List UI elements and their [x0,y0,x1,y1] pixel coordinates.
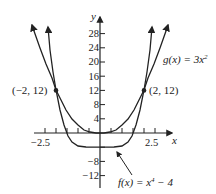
point-right [142,88,147,93]
y-tick-12: 12 [89,85,100,96]
function-graph: y x −2.5 2.5 28 24 20 16 12 8 4 −8 −12 (… [0,0,216,194]
f-function-label: f(x) = x4 − 4 [118,176,174,189]
y-tick-8: 8 [94,99,99,110]
y-tick-neg12: −12 [83,170,99,181]
x-tick-label-pos: 2.5 [145,137,158,148]
x-axis-label: x [171,134,177,146]
g-function-label: g(x) = 3x2 [163,53,208,66]
x-tick-label-neg: −2.5 [31,137,50,148]
y-axis-label: y [90,10,96,22]
y-tick-28: 28 [89,28,100,39]
y-ticks [100,34,105,176]
y-tick-4: 4 [94,113,100,124]
y-tick-neg8: −8 [88,156,99,167]
y-tick-16: 16 [89,71,100,82]
y-tick-20: 20 [89,56,100,67]
point-left-label: (−2, 12) [12,84,48,97]
y-tick-24: 24 [89,42,100,53]
point-left [54,88,59,93]
f-pointer-arrow [117,152,132,175]
point-right-label: (2, 12) [149,84,179,97]
